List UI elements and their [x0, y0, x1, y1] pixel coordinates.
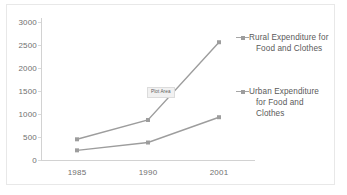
x-tick-label-1990: 1990 [139, 168, 158, 177]
y-tick-label-1000: 1000 [18, 110, 37, 119]
legend-label-rural: Rural Expenditure for Food and Clothes [249, 32, 328, 54]
plot-area-tooltip: Plot Area [147, 87, 175, 98]
y-tick-mark-0 [38, 160, 41, 161]
y-tick-label-500: 500 [23, 133, 37, 142]
y-tick-mark-1500 [38, 91, 41, 92]
legend-line-marker-icon [236, 33, 249, 43]
legend-item-urban[interactable]: Urban Expenditure for Food and Clothes [236, 86, 333, 119]
line-chart: 0 500 1000 1500 2000 2500 3000 1985 1990… [0, 0, 347, 195]
x-axis-line [41, 160, 255, 161]
y-tick-label-0: 0 [32, 156, 37, 165]
y-tick-mark-3000 [38, 22, 41, 23]
y-tick-mark-500 [38, 137, 41, 138]
y-tick-label-2500: 2500 [18, 41, 37, 50]
legend-label-urban-line1: Urban Expenditure [249, 87, 319, 96]
legend-label-urban-line2: for Food and Clothes [249, 97, 333, 119]
y-tick-label-3000: 3000 [18, 18, 37, 27]
y-tick-mark-2000 [38, 68, 41, 69]
x-tick-label-1985: 1985 [68, 168, 87, 177]
x-tick-label-2001: 2001 [210, 168, 229, 177]
y-axis-tick-labels: 0 500 1000 1500 2000 2500 3000 [6, 0, 37, 195]
legend-item-rural[interactable]: Rural Expenditure for Food and Clothes [236, 32, 328, 54]
y-tick-label-1500: 1500 [18, 87, 37, 96]
legend-label-urban: Urban Expenditure for Food and Clothes [249, 86, 333, 119]
y-axis-line [41, 18, 42, 160]
legend-label-rural-line2: Food and Clothes [249, 43, 328, 54]
legend-square-marker-icon [236, 87, 249, 97]
legend-label-rural-line1: Rural Expenditure for [249, 33, 328, 42]
y-tick-mark-1000 [38, 114, 41, 115]
y-tick-mark-2500 [38, 45, 41, 46]
y-tick-label-2000: 2000 [18, 64, 37, 73]
